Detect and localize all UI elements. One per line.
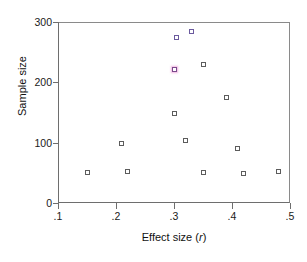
data-point [119,141,124,146]
x-axis-tick [58,203,59,209]
data-point [183,138,188,143]
data-point [189,29,194,34]
x-axis-tick [290,203,291,209]
data-points-layer [58,22,290,203]
x-axis-tick-label: .1 [46,210,70,222]
data-point [172,111,177,116]
x-axis-tick-label: .4 [220,210,244,222]
x-axis-tick-label: .2 [104,210,128,222]
data-point [172,67,177,72]
data-point [85,170,90,175]
x-axis-tick-label: .3 [162,210,186,222]
data-point [241,171,246,176]
scatter-plot-figure: 0100200300 .1.2.3.4.5 Effect size (r) Sa… [0,0,307,262]
data-point [125,169,130,174]
data-point [235,146,240,151]
x-axis-tick [116,203,117,209]
x-axis-tick [174,203,175,209]
x-axis-title-prefix: Effect size ( [142,231,199,243]
data-point [224,95,229,100]
data-point [201,62,206,67]
x-axis-tick-label: .5 [278,210,302,222]
x-axis-title-suffix: ) [203,231,207,243]
x-axis-tick [232,203,233,209]
data-point [276,169,281,174]
y-axis-title: Sample size [16,21,28,151]
data-point [174,35,179,40]
x-axis-title: Effect size (r) [58,231,290,243]
data-point [201,170,206,175]
y-axis-tick-label: 0 [14,198,52,208]
